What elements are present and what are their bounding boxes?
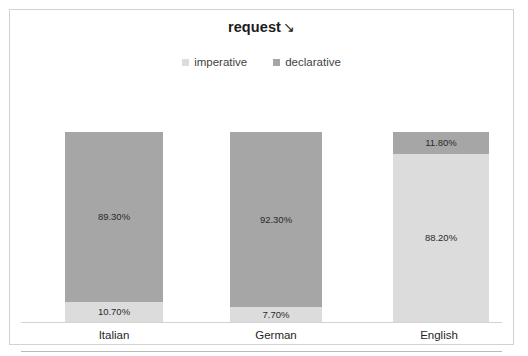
legend-item-imperative[interactable]: imperative [182, 56, 247, 68]
bar-segment-imperative-italian[interactable]: 10.70% [65, 302, 163, 322]
bar-segment-imperative-english[interactable]: 88.20% [393, 154, 489, 322]
category-label-english: English [366, 329, 512, 341]
legend-label-imperative: imperative [194, 56, 247, 68]
bar-label-declarative-german: 92.30% [260, 215, 292, 225]
bar-label-imperative-italian: 10.70% [98, 307, 130, 317]
bar-group-italian: 89.30% 10.70% [65, 132, 163, 322]
category-axis: Italian German English [11, 323, 512, 351]
chart-title-text: request [228, 19, 281, 35]
chart-title: request↘ [10, 19, 513, 35]
legend-swatch-icon-declarative [273, 59, 280, 66]
bar-group-german: 92.30% 7.70% [230, 132, 322, 322]
chart-frame: request↘ imperative declarative 89.30% 1… [9, 9, 514, 345]
plot-area: 89.30% 10.70% 92.30% 7.70% 11.80% 88.20% [11, 105, 512, 322]
chart-legend: imperative declarative [10, 56, 513, 68]
bar-group-english: 11.80% 88.20% [393, 132, 489, 322]
bar-segment-declarative-german[interactable]: 92.30% [230, 132, 322, 307]
bar-segment-imperative-german[interactable]: 7.70% [230, 307, 322, 322]
axis-baseline [21, 351, 502, 352]
legend-label-declarative: declarative [285, 56, 341, 68]
bar-label-imperative-german: 7.70% [263, 310, 290, 320]
bar-segment-declarative-italian[interactable]: 89.30% [65, 132, 163, 302]
category-label-german: German [203, 329, 349, 341]
legend-swatch-icon-imperative [182, 59, 189, 66]
down-right-arrow-icon: ↘ [281, 19, 295, 35]
legend-item-declarative[interactable]: declarative [273, 56, 341, 68]
category-label-italian: Italian [41, 329, 187, 341]
bar-label-declarative-english: 11.80% [425, 138, 457, 148]
bar-label-declarative-italian: 89.30% [98, 212, 130, 222]
bar-segment-declarative-english[interactable]: 11.80% [393, 132, 489, 154]
bar-label-imperative-english: 88.20% [425, 233, 457, 243]
